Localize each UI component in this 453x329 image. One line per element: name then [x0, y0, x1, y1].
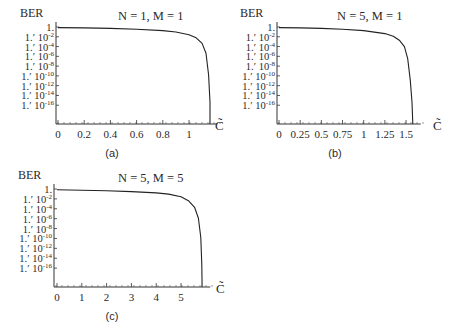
- panel-caption: (c): [106, 310, 119, 322]
- chart-title: N = 5, M = 1: [337, 9, 403, 23]
- x-tick-label: 0.4: [104, 128, 118, 140]
- x-tick-label: 1: [186, 128, 192, 140]
- x-tick-label: 0.6: [130, 128, 144, 140]
- x-tick-label: 0.8: [156, 128, 170, 140]
- x-tick-label: 2: [104, 291, 110, 303]
- x-axis-label: C̃: [216, 281, 225, 296]
- ber-curve: [58, 28, 210, 124]
- x-tick-label: 0: [276, 128, 282, 140]
- y-axis-label: BER: [20, 6, 43, 20]
- x-tick-label: 1.5: [399, 128, 413, 140]
- x-tick-label: 0.2: [77, 128, 91, 140]
- x-axis-label: C̃: [215, 118, 224, 133]
- x-tick-label: 0: [54, 291, 60, 303]
- x-tick-label: 5: [178, 291, 184, 303]
- chart-panel-c: 1.1.′ 10-21.′ 10-41.′ 10-61.′ 10-81.′ 10…: [18, 168, 225, 322]
- x-tick-label: 3: [129, 291, 135, 303]
- panel-caption: (a): [105, 147, 118, 159]
- figure-canvas: 1.1.′ 10-21.′ 10-41.′ 10-61.′ 10-81.′ 10…: [0, 0, 453, 329]
- ber-curve: [279, 28, 413, 124]
- y-tick-label: 1.′ 10-16: [21, 99, 54, 111]
- x-tick-label: 4: [153, 291, 159, 303]
- x-axis-label: C̃: [433, 118, 442, 133]
- y-tick-label: 1.′ 10-16: [242, 99, 275, 111]
- chart-panel-b: 1.1.′ 10-21.′ 10-41.′ 10-61.′ 10-81.′ 10…: [240, 6, 442, 159]
- x-tick-label: 0.75: [333, 128, 353, 140]
- x-tick-label: 1: [79, 291, 85, 303]
- chart-title: N = 5, M = 5: [118, 171, 184, 185]
- x-tick-label: 0: [55, 128, 61, 140]
- chart-title: N = 1, M = 1: [118, 9, 184, 23]
- x-tick-label: 0.5: [314, 128, 328, 140]
- x-tick-label: 0.25: [291, 128, 311, 140]
- y-tick-label: 1.′ 10-16: [19, 262, 52, 274]
- x-tick-label: 1.25: [375, 128, 395, 140]
- chart-panel-a: 1.1.′ 10-21.′ 10-41.′ 10-61.′ 10-81.′ 10…: [20, 6, 224, 159]
- y-axis-label: BER: [18, 168, 41, 182]
- panel-caption: (b): [328, 147, 341, 159]
- x-tick-label: 1: [361, 128, 367, 140]
- ber-curve: [57, 190, 202, 287]
- y-axis-label: BER: [240, 6, 263, 20]
